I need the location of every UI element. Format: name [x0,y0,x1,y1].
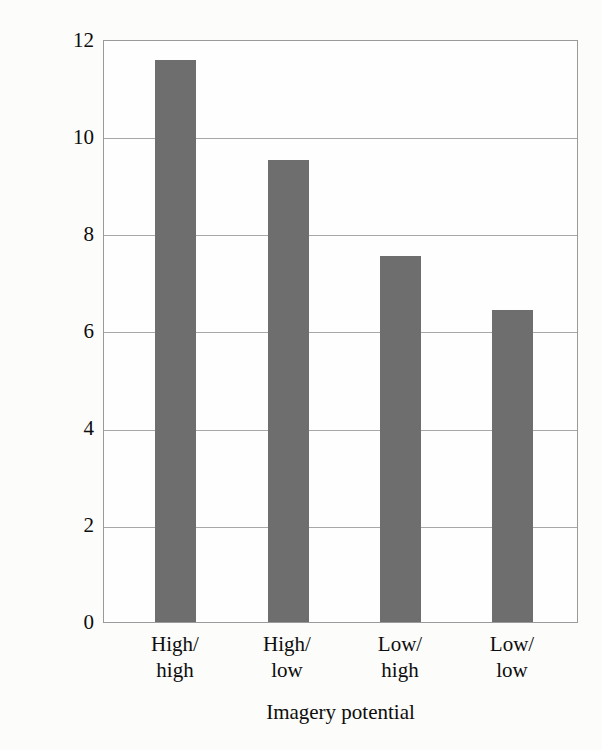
x-tick-label-high-high: High/ high [110,631,240,683]
x-tick-line2: low [222,657,352,683]
bar-low-low [492,310,533,622]
y-tick-label: 6 [54,321,94,342]
x-axis-title: Imagery potential [103,700,578,725]
x-tick-line1: Low/ [378,632,422,656]
x-tick-label-low-low: Low/ low [447,631,577,683]
x-tick-line1: High/ [151,632,199,656]
y-tick-label: 0 [54,612,94,633]
bar-high-low [268,160,309,622]
plot-area [103,40,578,623]
x-tick-line1: High/ [263,632,311,656]
y-tick-label: 12 [54,30,94,51]
x-tick-line2: low [447,657,577,683]
x-tick-label-low-high: Low/ high [335,631,465,683]
y-axis-title: Average number of pairs recalled [16,0,50,100]
y-tick-label: 4 [54,418,94,439]
y-tick-label: 8 [54,224,94,245]
bar-chart-figure: Average number of pairs recalled 12 10 8… [0,0,602,750]
x-tick-line2: high [110,657,240,683]
x-axis-tick-labels: High/ high High/ low Low/ high Low/ low [103,631,578,693]
x-tick-line2: high [335,657,465,683]
y-tick-label: 2 [54,515,94,536]
bar-high-high [155,60,196,622]
x-tick-line1: Low/ [490,632,534,656]
y-tick-label: 10 [54,127,94,148]
y-axis-title-wrapper: Average number of pairs recalled [6,26,40,623]
y-axis-tick-labels: 12 10 8 6 4 2 0 [48,40,94,623]
x-tick-label-high-low: High/ low [222,631,352,683]
bar-low-high [380,256,421,622]
